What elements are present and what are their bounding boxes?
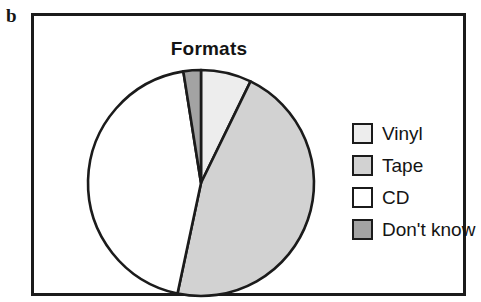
- legend-swatch-don-t-know: [352, 219, 373, 240]
- pie-slice-group: [88, 70, 314, 296]
- legend-label-tape: Tape: [382, 156, 423, 175]
- chart-legend: VinylTapeCDDon't know: [352, 117, 481, 245]
- chart-title: Formats: [114, 38, 304, 60]
- legend-swatch-tape: [352, 155, 373, 176]
- panel-label: b: [6, 6, 17, 25]
- legend-item-tape: Tape: [352, 149, 481, 181]
- legend-swatch-vinyl: [352, 123, 373, 144]
- legend-label-cd: CD: [382, 188, 409, 207]
- legend-item-vinyl: Vinyl: [352, 117, 481, 149]
- legend-label-vinyl: Vinyl: [382, 124, 423, 143]
- pie-chart: [74, 61, 329, 302]
- chart-frame: Formats VinylTapeCDDon't know: [31, 13, 466, 296]
- pie-slice-cd: [88, 71, 201, 293]
- legend-item-cd: CD: [352, 181, 481, 213]
- legend-swatch-cd: [352, 187, 373, 208]
- legend-label-don-t-know: Don't know: [382, 220, 475, 239]
- legend-item-don-t-know: Don't know: [352, 213, 481, 245]
